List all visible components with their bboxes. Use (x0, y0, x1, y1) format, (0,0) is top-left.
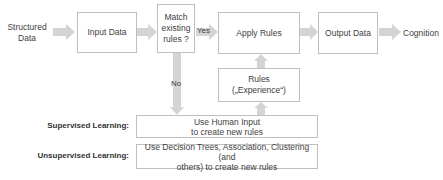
arrow-up-icon (254, 54, 268, 68)
arrow-right-icon (300, 24, 318, 40)
arrow-up-icon (254, 102, 268, 115)
match-rules-node: Match existing rules ? (157, 4, 195, 53)
rules-experience-node: Rules („Experience“) (218, 68, 300, 102)
arrow-right-icon (137, 24, 157, 40)
arrow-right-icon (379, 24, 401, 40)
output-data-node: Output Data (318, 12, 378, 54)
unsupervised-learning-node: Use Decision Trees, Association, Cluster… (136, 144, 318, 169)
supervised-learning-node: Use Human Input to create new rules (136, 115, 318, 138)
arrow-right-icon (53, 24, 75, 40)
structured-data-label: Structured Data (2, 22, 52, 44)
yes-edge-label: Yes (197, 26, 210, 35)
unsupervised-learning-label: Unsupervised Learning: (37, 151, 129, 160)
input-data-node: Input Data (77, 12, 137, 53)
supervised-learning-label: Supervised Learning: (47, 121, 129, 130)
cognition-label: Cognition (403, 28, 439, 39)
no-edge-label: No (171, 79, 181, 88)
apply-rules-node: Apply Rules (218, 12, 300, 54)
